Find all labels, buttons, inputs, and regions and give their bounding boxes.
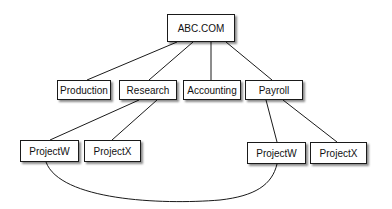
node-label: ProjectX bbox=[320, 148, 358, 159]
node-production: Production bbox=[57, 80, 111, 100]
node-abc-com: ABC.COM bbox=[167, 14, 235, 42]
node-label: Production bbox=[60, 85, 108, 96]
node-payroll-projectx: ProjectX bbox=[310, 142, 367, 164]
edge-abc-production bbox=[87, 42, 177, 80]
node-label: ABC.COM bbox=[178, 23, 225, 34]
node-label: Accounting bbox=[187, 85, 236, 96]
node-payroll-projectw: ProjectW bbox=[247, 142, 306, 164]
edge-payroll-projectw bbox=[266, 100, 277, 142]
node-label: Payroll bbox=[259, 85, 290, 96]
edge-abc-payroll bbox=[226, 42, 272, 80]
node-label: ProjectX bbox=[94, 146, 132, 157]
node-payroll: Payroll bbox=[245, 80, 303, 100]
edge-abc-research bbox=[149, 42, 193, 80]
edge-research-projectw bbox=[50, 100, 139, 140]
node-label: Research bbox=[127, 85, 170, 96]
node-research-projectw: ProjectW bbox=[20, 140, 79, 162]
edge-projectw-link bbox=[46, 162, 277, 202]
node-research: Research bbox=[119, 80, 177, 100]
node-research-projectx: ProjectX bbox=[84, 140, 141, 162]
edge-research-projectx bbox=[112, 100, 157, 140]
node-label: ProjectW bbox=[256, 148, 297, 159]
node-label: ProjectW bbox=[29, 146, 70, 157]
edge-payroll-projectx bbox=[283, 100, 337, 142]
node-accounting: Accounting bbox=[183, 80, 241, 100]
